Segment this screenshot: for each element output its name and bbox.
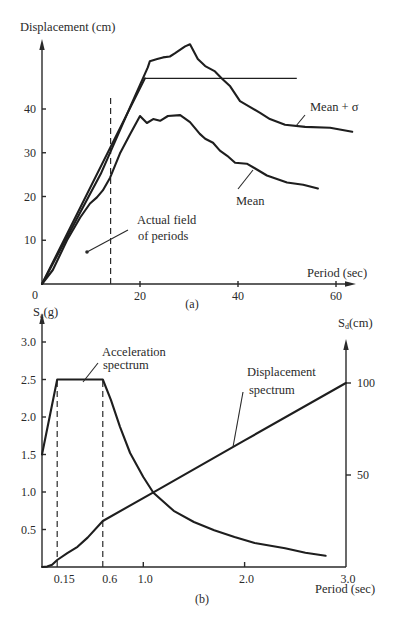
x-tick-label: 0.15: [54, 572, 75, 586]
panel-a-y-axis-arrow-icon: [39, 39, 44, 50]
left-y-tick-label: 1.5: [21, 448, 36, 462]
series-envelope: [42, 78, 145, 284]
y-tick-label: 10: [24, 233, 36, 247]
mean-plus-sigma-leader: [296, 115, 305, 126]
left-y-tick-label: 2.0: [21, 410, 36, 424]
acceleration-label-line1: Acceleration: [102, 345, 167, 359]
x-tick-label: 60: [330, 289, 342, 303]
mean-plus-sigma-label: Mean + σ: [310, 100, 359, 114]
panel-b-left-y-axis-label: Sa(g): [33, 305, 58, 320]
panel-a-series: [42, 44, 352, 284]
x-tick-label: 2.0: [239, 572, 254, 586]
panel-b-right-y-axis-label: Sd(cm): [338, 316, 373, 331]
mean-label: Mean: [236, 194, 265, 208]
left-y-tick-label: 0.5: [21, 523, 36, 537]
y-tick-label: 40: [24, 102, 36, 116]
panel-a-ticks: 10203040204060: [24, 102, 342, 303]
y-tick-label: 30: [24, 146, 36, 160]
panel-a-x-axis-arrow-icon: [345, 281, 356, 286]
left-y-tick-label: 1.0: [21, 485, 36, 499]
displacement-leader: [233, 392, 243, 447]
panel-a-y-axis-label: Displacement (cm): [20, 20, 115, 34]
right-y-tick-label: 100: [357, 376, 375, 390]
panel-a-caption: (a): [185, 297, 198, 311]
right-y-tick-label: 50: [357, 468, 369, 482]
series-mean-plus-sigma: [42, 44, 352, 284]
figure: Displacement (cm) 10203040204060 0 Perio…: [0, 0, 393, 620]
series-displacement-spectrum: [42, 383, 346, 567]
panel-a-x-axis-label: Period (sec): [307, 266, 367, 280]
x-tick-label: 0.6: [102, 572, 117, 586]
panel-b-right-axis-arrow-icon: [343, 339, 348, 350]
mean-leader: [238, 170, 253, 189]
series-acceleration-spectrum: [42, 380, 326, 556]
actual-field-leader: [87, 230, 128, 252]
panel-a-displacement-chart: Displacement (cm) 10203040204060 0 Perio…: [20, 20, 367, 311]
panel-a-origin-label: 0: [32, 288, 38, 302]
panel-b-x-axis-label: Period (sec): [315, 582, 375, 596]
panel-b-series: [42, 380, 346, 568]
left-y-tick-label: 3.0: [21, 335, 36, 349]
acceleration-label-line2: spectrum: [103, 358, 149, 372]
y-tick-label: 20: [24, 190, 36, 204]
displacement-label-line2: spectrum: [249, 383, 295, 397]
displacement-label-line1: Displacement: [247, 365, 316, 379]
left-y-tick-label: 2.5: [21, 373, 36, 387]
panel-b-spectra-chart: Sa(g) Sd(cm) 0.51.01.52.02.53.0501000.15…: [21, 305, 375, 606]
x-tick-label: 1.0: [138, 572, 153, 586]
panel-b-caption: (b): [195, 592, 209, 606]
actual-field-label-line2: of periods: [138, 229, 188, 243]
x-tick-label: 40: [232, 289, 244, 303]
x-tick-label: 20: [134, 289, 146, 303]
actual-field-label-line1: Actual field: [137, 213, 197, 227]
